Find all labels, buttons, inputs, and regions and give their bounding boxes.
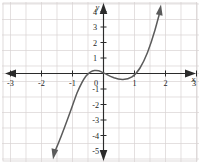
y-tick-label--3: -3 <box>92 116 99 125</box>
x-tick-label-1: 1 <box>132 79 136 88</box>
y-tick-label--2: -2 <box>92 101 99 110</box>
y-tick-label-1: 1 <box>93 54 97 63</box>
x-axis-label: x <box>191 74 196 84</box>
y-tick-label--5: -5 <box>92 147 99 156</box>
x-tick-label-2: 2 <box>163 79 167 88</box>
coordinate-plane-svg: -3 -2 -1 1 2 3 4 3 2 1 -1 -2 -3 -4 -5 0 … <box>0 0 201 164</box>
y-tick-label-2: 2 <box>93 39 97 48</box>
x-tick-label--1: -1 <box>69 79 76 88</box>
x-tick-label--3: -3 <box>7 79 14 88</box>
y-tick-label-3: 3 <box>93 23 97 32</box>
plot-background <box>0 0 201 164</box>
x-tick-label--2: -2 <box>38 79 45 88</box>
y-axis-label: y <box>95 2 100 12</box>
y-tick-label--4: -4 <box>92 132 99 141</box>
graph-figure: -3 -2 -1 1 2 3 4 3 2 1 -1 -2 -3 -4 -5 0 … <box>0 0 201 164</box>
origin-label: 0 <box>94 79 98 88</box>
